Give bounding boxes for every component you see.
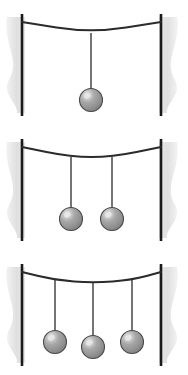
- mass-ball: [80, 89, 103, 112]
- mass-ball: [82, 336, 105, 359]
- mass-ball: [44, 331, 67, 354]
- mass-ball: [101, 208, 124, 231]
- mass-ball: [121, 331, 144, 354]
- hanging-masses-figure: [0, 0, 188, 375]
- figure-canvas: [0, 0, 188, 375]
- mass-ball: [60, 208, 83, 231]
